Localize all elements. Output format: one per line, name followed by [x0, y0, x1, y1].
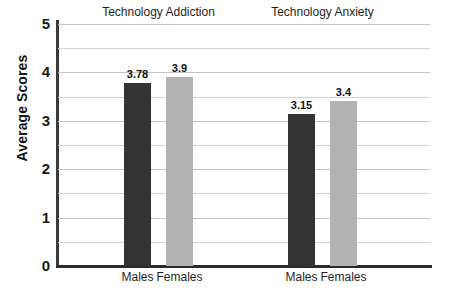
y-axis-tick-label: 5 [30, 16, 50, 31]
gridline [58, 193, 430, 194]
bar-males-1: 3.78 [124, 83, 151, 266]
bar-chart: Average Scores 3.783.93.153.4 012345 Tec… [0, 0, 449, 294]
bar-females-1: 3.9 [166, 77, 193, 266]
y-axis-tick-label: 0 [30, 258, 50, 273]
bar-value-label: 3.9 [172, 62, 187, 74]
x-axis-tick-label: Females [304, 270, 384, 284]
gridline [58, 218, 430, 219]
gridline [58, 242, 430, 243]
plot-area: 3.783.93.153.4 [58, 24, 430, 266]
gridline [58, 72, 430, 73]
bar-value-label: 3.78 [127, 68, 148, 80]
y-axis-title: Average Scores [14, 28, 30, 188]
gridline [58, 121, 430, 122]
bar-males-2: 3.15 [288, 114, 315, 266]
gridline [58, 24, 430, 25]
gridline [58, 169, 430, 170]
y-axis-tick-label: 3 [30, 113, 50, 128]
y-axis-tick-label: 2 [30, 161, 50, 176]
bar-value-label: 3.15 [291, 99, 312, 111]
y-axis-tick-label: 1 [30, 210, 50, 225]
gridline [58, 145, 430, 146]
group-header: Technology Addiction [69, 5, 249, 19]
group-header: Technology Anxiety [233, 5, 413, 19]
bar-females-2: 3.4 [330, 101, 357, 266]
gridline [58, 97, 430, 98]
y-axis-tick-label: 4 [30, 64, 50, 79]
bar-value-label: 3.4 [336, 86, 351, 98]
gridline [58, 48, 430, 49]
x-axis-tick-label: Females [140, 270, 220, 284]
